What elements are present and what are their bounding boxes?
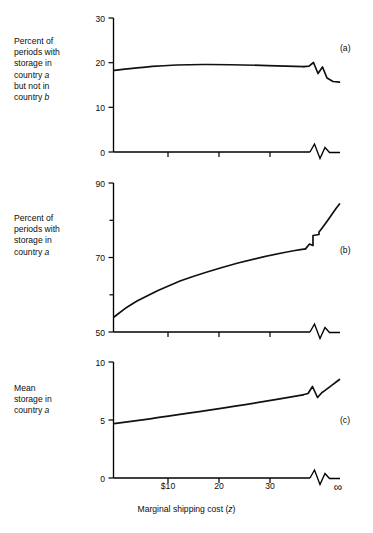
panel-b-label-line-4: country a <box>14 247 49 257</box>
panel-b-series-break-segment <box>306 204 340 249</box>
panel-c-ytick-label-5: 5 <box>100 416 105 426</box>
panel-letter-a: (a) <box>340 43 351 53</box>
panel-a-label-line-4: country a <box>14 70 49 80</box>
panel-c-axis-label: Mean storage in country a <box>14 383 96 417</box>
panel-b-x-axis-break <box>310 324 340 339</box>
panel-a-ytick-label-20: 20 <box>95 58 105 68</box>
panel-letter-c: (c) <box>340 415 350 425</box>
panel-b-plot: 90 70 50 <box>0 172 373 350</box>
panel-a-ytick-label-10: 10 <box>95 103 105 113</box>
x-axis-tick-labels: $10 20 30 ∞ <box>0 481 373 495</box>
panel-b-ytick-label-70: 70 <box>95 253 105 263</box>
panel-c-series-line <box>114 395 303 424</box>
panel-c-label-line-3: country a <box>14 405 49 415</box>
panel-b-label-line-1: Percent of <box>14 213 53 223</box>
panel-a-ytick-label-0: 0 <box>100 148 105 158</box>
xtick-label-infinity: ∞ <box>334 480 343 494</box>
panel-b-label-line-2: periods with <box>14 224 60 234</box>
xtick-label-10: $10 <box>161 481 175 491</box>
panel-c-label-line-2: storage in <box>14 394 52 404</box>
panel-a-series-line <box>114 64 304 70</box>
panel-a-axis-label: Percent of periods with storage in count… <box>14 36 96 103</box>
panel-b-ytick-label-90: 90 <box>95 179 105 189</box>
panel-b-label-line-3: storage in <box>14 235 52 245</box>
x-axis-caption-prefix: Marginal shipping cost ( <box>138 504 229 514</box>
panel-c-label-line-1: Mean <box>14 383 36 393</box>
panel-a-label-line-5: but not in <box>14 81 49 91</box>
x-axis-caption: Marginal shipping cost (z) <box>0 504 373 514</box>
panel-b-axis-label: Percent of periods with storage in count… <box>14 213 96 258</box>
figure-three-panel-line-chart: 30 20 10 0 90 <box>0 0 373 533</box>
panel-a-series-break-segment <box>304 63 340 83</box>
panel-b-series-line <box>114 249 306 317</box>
chart-panel-b: 90 70 50 <box>0 172 373 350</box>
panel-b-ytick-label-50: 50 <box>95 328 105 338</box>
xtick-label-20: 20 <box>214 481 224 491</box>
panel-a-x-axis-break <box>310 144 340 159</box>
panel-c-series-break-segment <box>303 380 340 398</box>
panel-c-ytick-label-10: 10 <box>95 358 105 368</box>
panel-a-label-line-2: periods with <box>14 47 60 57</box>
panel-a-label-line-3: storage in <box>14 58 52 68</box>
panel-a-label-line-6: country b <box>14 92 49 102</box>
panel-a-ytick-label-30: 30 <box>95 14 105 24</box>
xtick-label-30: 30 <box>265 481 275 491</box>
panel-a-label-line-1: Percent of <box>14 36 53 46</box>
panel-letter-b: (b) <box>340 245 351 255</box>
x-axis-caption-suffix: ) <box>233 504 236 514</box>
